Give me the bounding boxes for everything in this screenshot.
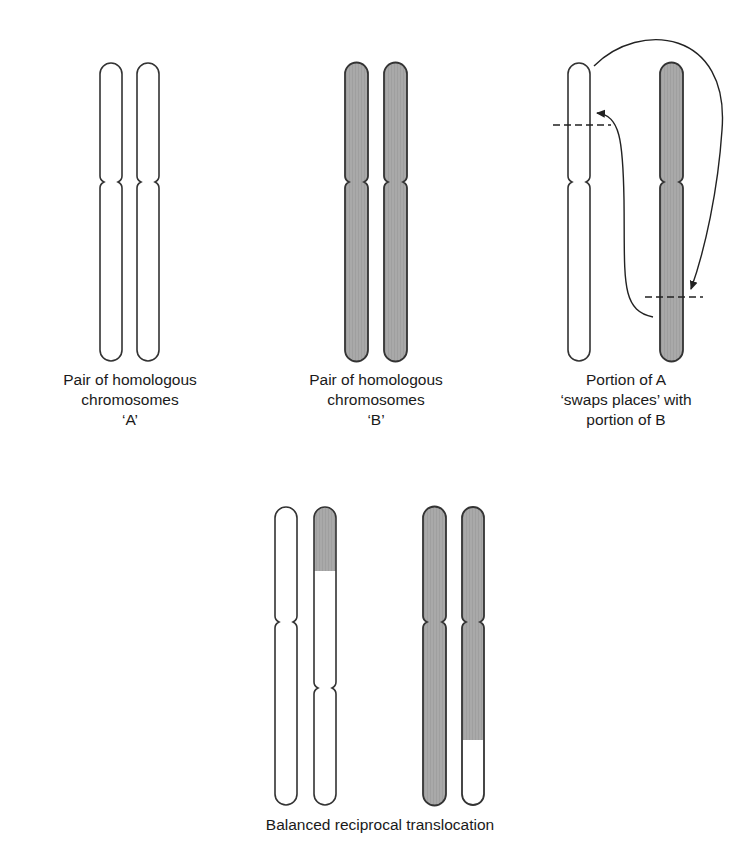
caption-line: Pair of homologous: [309, 370, 443, 390]
translocation-result: [275, 507, 484, 806]
caption-line: chromosomes: [309, 390, 443, 410]
caption-line: Balanced reciprocal translocation: [266, 815, 494, 835]
chromosome-b-swap: [660, 63, 683, 362]
chromosome-a2: [137, 63, 159, 361]
chromosome-b1: [345, 63, 368, 362]
caption-pair-a: Pair of homologous chromosomes ‘A’: [63, 370, 197, 430]
chromosome-a-swap: [568, 63, 590, 361]
chromosome-pair-b: [345, 63, 407, 362]
caption-pair-b: Pair of homologous chromosomes ‘B’: [309, 370, 443, 430]
arrow-a-to-b: [594, 40, 722, 289]
caption-line: portion of B: [560, 410, 691, 430]
chromosome-b2: [384, 63, 407, 362]
caption-swap: Portion of A ‘swaps places’ with portion…: [560, 370, 691, 430]
chromosome-b-normal: [423, 507, 446, 806]
caption-result: Balanced reciprocal translocation: [266, 815, 494, 835]
caption-line: ‘B’: [309, 410, 443, 430]
chromosome-b-derivative-fill: [462, 507, 484, 740]
chromosome-a-derivative-tip: [314, 507, 336, 571]
swap-panel: [553, 40, 722, 362]
caption-line: Pair of homologous: [63, 370, 197, 390]
caption-line: Portion of A: [560, 370, 691, 390]
chromosome-a1: [100, 63, 122, 361]
arrow-b-to-a: [597, 113, 653, 317]
caption-line: ‘A’: [63, 410, 197, 430]
chromosome-pair-a: [100, 63, 159, 361]
caption-line: ‘swaps places’ with: [560, 390, 691, 410]
caption-line: chromosomes: [63, 390, 197, 410]
chromosome-a-normal: [275, 507, 297, 805]
